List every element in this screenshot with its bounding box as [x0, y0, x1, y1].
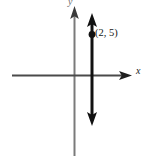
y-axis-label: y	[68, 0, 72, 7]
point-label: (2, 5)	[95, 28, 118, 39]
x-axis-label: x	[136, 66, 140, 76]
coordinate-plane-svg	[0, 0, 159, 162]
graph-figure: (2, 5) x y	[0, 0, 159, 162]
